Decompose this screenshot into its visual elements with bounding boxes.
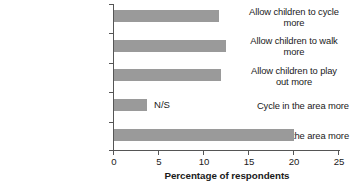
x-axis-tick (113, 151, 114, 155)
y-axis-tick (109, 63, 113, 64)
y-axis-tick (109, 33, 113, 34)
x-axis-tick (203, 151, 204, 155)
bar-walk-in-area (114, 129, 294, 141)
x-axis-tick-label: 0 (99, 156, 129, 167)
y-axis-tick (109, 92, 113, 93)
annotation-ns: N/S (154, 99, 170, 110)
x-axis-tick-label: 5 (144, 156, 174, 167)
x-axis-tick-label: 15 (234, 156, 264, 167)
bar-allow-children-play-out (114, 69, 221, 81)
x-axis-tick (248, 151, 249, 155)
x-axis-tick-label: 10 (189, 156, 219, 167)
bar-allow-children-walk (114, 40, 226, 52)
horizontal-bar-chart: Allow children to cycle more Allow child… (0, 0, 352, 189)
x-axis-tick (338, 151, 339, 155)
bar-allow-children-cycle (114, 10, 219, 22)
x-axis-tick (158, 151, 159, 155)
plot-area: N/S 0 5 10 15 20 25 (114, 0, 340, 150)
y-axis-tick (109, 122, 113, 123)
x-axis-tick (293, 151, 294, 155)
x-axis-line (113, 150, 340, 151)
x-axis-tick-label: 25 (324, 156, 352, 167)
x-axis-title: Percentage of respondents (114, 170, 340, 181)
y-axis-tick (109, 4, 113, 5)
x-axis-tick-label: 20 (279, 156, 309, 167)
bar-cycle-in-area (114, 99, 147, 111)
